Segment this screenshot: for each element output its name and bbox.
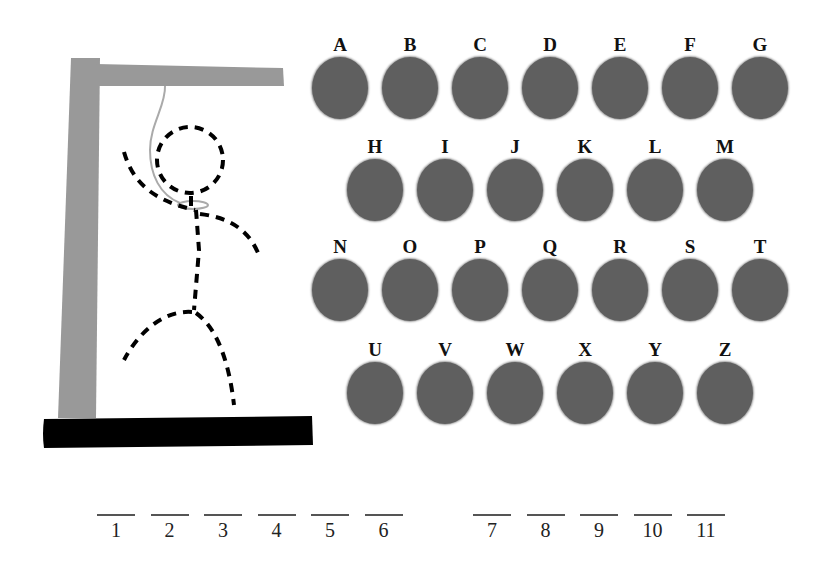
letter-slot-7: 7 bbox=[473, 514, 511, 541]
letter-label: B bbox=[381, 35, 439, 57]
letter-circle[interactable] bbox=[347, 362, 403, 424]
letter-circle[interactable] bbox=[627, 159, 683, 221]
blank-line bbox=[580, 514, 618, 516]
letter-slot-3: 3 bbox=[204, 514, 242, 541]
letter-label: C bbox=[451, 35, 509, 57]
slot-number: 6 bbox=[365, 519, 403, 541]
slot-number: 11 bbox=[687, 519, 725, 541]
letter-circle[interactable] bbox=[662, 259, 718, 321]
letter-slot-9: 9 bbox=[580, 514, 618, 541]
letter-label: E bbox=[591, 35, 649, 57]
letter-button-y[interactable]: Y bbox=[626, 340, 684, 424]
letter-button-t[interactable]: T bbox=[731, 237, 789, 321]
letter-button-u[interactable]: U bbox=[346, 340, 404, 424]
letter-circle[interactable] bbox=[347, 159, 403, 221]
blank-line bbox=[634, 514, 672, 516]
letter-label: Z bbox=[696, 340, 754, 362]
letter-label: U bbox=[346, 340, 404, 362]
letter-circle[interactable] bbox=[557, 159, 613, 221]
letter-circle[interactable] bbox=[487, 159, 543, 221]
letter-circle[interactable] bbox=[522, 259, 578, 321]
figure-body bbox=[194, 210, 199, 310]
letter-circle[interactable] bbox=[312, 57, 368, 119]
letter-button-l[interactable]: L bbox=[626, 137, 684, 221]
letter-button-b[interactable]: B bbox=[381, 35, 439, 119]
letter-circle[interactable] bbox=[732, 57, 788, 119]
slot-number: 3 bbox=[204, 519, 242, 541]
letter-button-i[interactable]: I bbox=[416, 137, 474, 221]
letter-button-n[interactable]: N bbox=[311, 237, 369, 321]
letter-button-p[interactable]: P bbox=[451, 237, 509, 321]
letter-label: H bbox=[346, 137, 404, 159]
blank-line bbox=[365, 514, 403, 516]
letter-label: K bbox=[556, 137, 614, 159]
letter-button-g[interactable]: G bbox=[731, 35, 789, 119]
figure-right-arm bbox=[200, 214, 260, 258]
letter-button-z[interactable]: Z bbox=[696, 340, 754, 424]
letter-circle[interactable] bbox=[452, 57, 508, 119]
letter-circle[interactable] bbox=[697, 159, 753, 221]
figure-head bbox=[157, 127, 223, 193]
letter-button-r[interactable]: R bbox=[591, 237, 649, 321]
letter-label: T bbox=[731, 237, 789, 259]
letter-circle[interactable] bbox=[382, 259, 438, 321]
slot-number: 2 bbox=[151, 519, 189, 541]
letter-slot-5: 5 bbox=[311, 514, 349, 541]
figure-right-leg bbox=[196, 313, 234, 405]
letter-circle[interactable] bbox=[557, 362, 613, 424]
slot-number: 9 bbox=[580, 519, 618, 541]
letter-circle[interactable] bbox=[382, 57, 438, 119]
letter-slot-2: 2 bbox=[151, 514, 189, 541]
letter-button-v[interactable]: V bbox=[416, 340, 474, 424]
letter-label: Y bbox=[626, 340, 684, 362]
blank-line bbox=[473, 514, 511, 516]
letter-circle[interactable] bbox=[592, 259, 648, 321]
letter-label: Q bbox=[521, 237, 579, 259]
letter-label: N bbox=[311, 237, 369, 259]
letter-button-q[interactable]: Q bbox=[521, 237, 579, 321]
letter-button-m[interactable]: M bbox=[696, 137, 754, 221]
letter-label: V bbox=[416, 340, 474, 362]
letter-circle[interactable] bbox=[522, 57, 578, 119]
letter-button-k[interactable]: K bbox=[556, 137, 614, 221]
letter-circle[interactable] bbox=[417, 159, 473, 221]
slot-number: 10 bbox=[634, 519, 672, 541]
letter-slot-1: 1 bbox=[97, 514, 135, 541]
letter-label: S bbox=[661, 237, 719, 259]
letter-button-c[interactable]: C bbox=[451, 35, 509, 119]
hangman-gallows bbox=[0, 0, 330, 460]
letter-button-w[interactable]: W bbox=[486, 340, 544, 424]
letter-button-a[interactable]: A bbox=[311, 35, 369, 119]
letter-circle[interactable] bbox=[417, 362, 473, 424]
letter-slot-6: 6 bbox=[365, 514, 403, 541]
letter-button-x[interactable]: X bbox=[556, 340, 614, 424]
letter-circle[interactable] bbox=[627, 362, 683, 424]
figure-left-leg bbox=[124, 312, 192, 360]
blank-line bbox=[97, 514, 135, 516]
letter-button-o[interactable]: O bbox=[381, 237, 439, 321]
gallows-post bbox=[58, 58, 100, 418]
letter-label: X bbox=[556, 340, 614, 362]
gallows-base bbox=[43, 416, 313, 448]
slot-number: 4 bbox=[258, 519, 296, 541]
letter-label: O bbox=[381, 237, 439, 259]
letter-circle[interactable] bbox=[452, 259, 508, 321]
letter-label: G bbox=[731, 35, 789, 57]
letter-circle[interactable] bbox=[312, 259, 368, 321]
letter-slot-4: 4 bbox=[258, 514, 296, 541]
letter-button-j[interactable]: J bbox=[486, 137, 544, 221]
letter-button-e[interactable]: E bbox=[591, 35, 649, 119]
letter-button-f[interactable]: F bbox=[661, 35, 719, 119]
letter-button-h[interactable]: H bbox=[346, 137, 404, 221]
letter-circle[interactable] bbox=[732, 259, 788, 321]
letter-circle[interactable] bbox=[592, 57, 648, 119]
letter-label: M bbox=[696, 137, 754, 159]
letter-label: J bbox=[486, 137, 544, 159]
letter-circle[interactable] bbox=[487, 362, 543, 424]
letter-circle[interactable] bbox=[697, 362, 753, 424]
letter-label: W bbox=[486, 340, 544, 362]
letter-circle[interactable] bbox=[662, 57, 718, 119]
blank-line bbox=[527, 514, 565, 516]
letter-button-s[interactable]: S bbox=[661, 237, 719, 321]
letter-button-d[interactable]: D bbox=[521, 35, 579, 119]
